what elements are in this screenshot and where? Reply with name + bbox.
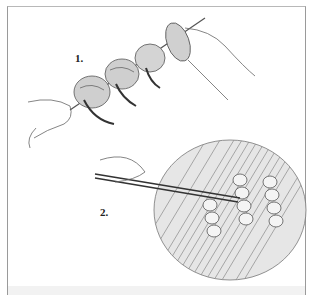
step-2-label: 2. [100, 206, 108, 218]
bottom-strip [8, 286, 305, 295]
shrimp-icon [105, 59, 139, 106]
shrimp-icon [161, 19, 195, 64]
step-1-label: 1. [75, 52, 83, 64]
shrimp-icon [74, 76, 114, 124]
grill-grate [154, 140, 306, 280]
right-hand [185, 28, 255, 100]
shrimp-illustration [0, 0, 313, 295]
shrimp-icon [135, 44, 165, 88]
left-hand [28, 100, 71, 148]
step-2-illustration [95, 110, 313, 290]
step-1-illustration [28, 18, 255, 148]
